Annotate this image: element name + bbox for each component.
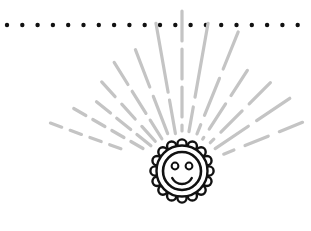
sun-illustration: Smiling sun with radiating rays: [0, 0, 311, 231]
dot: [265, 23, 269, 27]
ray: [156, 23, 175, 133]
dot: [112, 23, 116, 27]
dot: [66, 23, 70, 27]
ray: [50, 123, 127, 151]
dot: [97, 23, 101, 27]
dot: [51, 23, 55, 27]
sun-rays: [50, 11, 302, 154]
dot: [280, 23, 284, 27]
dot: [219, 23, 223, 27]
dot: [35, 23, 39, 27]
dot: [5, 23, 9, 27]
dot: [20, 23, 24, 27]
dot: [188, 23, 192, 27]
dotted-line: [5, 23, 300, 27]
dot: [250, 23, 254, 27]
dot: [173, 23, 177, 27]
dot: [143, 23, 147, 27]
dot: [81, 23, 85, 27]
illustration-svg: [0, 0, 311, 231]
dot: [127, 23, 131, 27]
dot: [296, 23, 300, 27]
sun-icon: [150, 139, 213, 202]
dot: [158, 23, 162, 27]
dot: [234, 23, 238, 27]
ray: [224, 122, 303, 154]
